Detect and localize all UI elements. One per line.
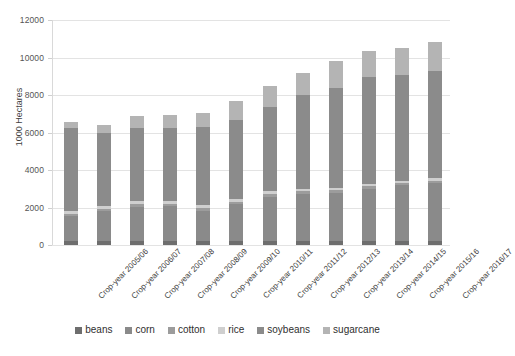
bar-segment-corn	[296, 194, 310, 241]
bar-segment-soybeans	[130, 128, 144, 201]
bar-segment-corn	[362, 189, 376, 241]
legend-item-corn[interactable]: corn	[125, 325, 154, 335]
bar-segment-corn	[64, 216, 78, 240]
bar-segment-sugarcane	[97, 125, 111, 133]
bar-segment-beans	[163, 241, 177, 245]
bar-segment-corn	[329, 193, 343, 241]
bar-crop-year-2009-10	[196, 113, 210, 245]
legend-item-beans[interactable]: beans	[75, 325, 112, 335]
bar-crop-year-2013-14	[329, 61, 343, 246]
bar-segment-beans	[428, 241, 442, 245]
y-tick-label: 12000	[0, 15, 44, 25]
bar-segment-soybeans	[329, 88, 343, 188]
y-tick-label: 0	[0, 240, 44, 250]
legend-label: cotton	[178, 325, 205, 335]
bar-segment-soybeans	[196, 127, 210, 205]
bar-crop-year-2010-11	[229, 101, 243, 245]
legend-item-soybeans[interactable]: soybeans	[257, 325, 310, 335]
bar-segment-beans	[395, 241, 409, 245]
bar-crop-year-2011-12	[263, 86, 277, 245]
bar-segment-sugarcane	[263, 86, 277, 107]
bar-segment-corn	[428, 183, 442, 241]
bar-segment-beans	[229, 241, 243, 245]
bar-segment-corn	[163, 206, 177, 241]
bars-layer	[52, 20, 450, 245]
bar-segment-corn	[97, 211, 111, 240]
legend-swatch-sugarcane-icon	[323, 327, 330, 334]
bar-segment-soybeans	[163, 128, 177, 201]
bar-segment-sugarcane	[296, 73, 310, 94]
bar-crop-year-2008-09	[163, 115, 177, 245]
bar-segment-beans	[329, 241, 343, 245]
bar-segment-corn	[229, 204, 243, 241]
bar-segment-soybeans	[395, 75, 409, 180]
bar-segment-sugarcane	[163, 115, 177, 128]
bar-segment-sugarcane	[428, 42, 442, 71]
legend-swatch-cotton-icon	[168, 327, 175, 334]
bar-crop-year-2006-07	[97, 125, 111, 245]
legend-swatch-rice-icon	[218, 327, 225, 334]
bar-segment-soybeans	[362, 77, 376, 184]
bar-crop-year-2014-15	[362, 51, 376, 245]
plot-area	[52, 20, 450, 245]
legend-label: corn	[135, 325, 154, 335]
y-axis-ticks: 020004000600080001000012000	[0, 20, 48, 245]
bar-segment-soybeans	[296, 95, 310, 189]
legend-label: soybeans	[267, 325, 310, 335]
bar-segment-corn	[395, 185, 409, 241]
bar-segment-soybeans	[263, 107, 277, 191]
bar-segment-corn	[130, 207, 144, 241]
bar-crop-year-2007-08	[130, 116, 144, 245]
bar-segment-sugarcane	[229, 101, 243, 120]
bar-segment-sugarcane	[362, 51, 376, 77]
bar-segment-soybeans	[97, 133, 111, 206]
bar-crop-year-2016-17	[428, 42, 442, 245]
legend-item-sugarcane[interactable]: sugarcane	[323, 325, 380, 335]
bar-segment-sugarcane	[329, 61, 343, 89]
bar-segment-beans	[296, 241, 310, 245]
x-axis-labels: Crop-year 2005/06Crop-year 2006/07Crop-y…	[52, 247, 450, 309]
legend-item-rice[interactable]: rice	[218, 325, 244, 335]
bar-segment-sugarcane	[196, 113, 210, 127]
bar-segment-sugarcane	[395, 48, 409, 75]
legend-swatch-soybeans-icon	[257, 327, 264, 334]
y-axis-title: 1000 Hectares	[14, 57, 24, 177]
bar-segment-beans	[97, 241, 111, 245]
bar-segment-corn	[196, 211, 210, 241]
bar-segment-soybeans	[229, 120, 243, 199]
legend-label: sugarcane	[333, 325, 380, 335]
bar-segment-beans	[64, 241, 78, 245]
legend-label: beans	[85, 325, 112, 335]
legend-item-cotton[interactable]: cotton	[168, 325, 205, 335]
bar-crop-year-2005-06	[64, 122, 78, 245]
bar-segment-soybeans	[428, 71, 442, 179]
chart-legend: beanscorncottonricesoybeanssugarcane	[0, 325, 455, 335]
bar-segment-soybeans	[64, 128, 78, 211]
bar-segment-sugarcane	[130, 116, 144, 128]
bar-crop-year-2015-16	[395, 48, 409, 245]
legend-swatch-corn-icon	[125, 327, 132, 334]
y-tick-label: 2000	[0, 203, 44, 213]
bar-segment-beans	[130, 241, 144, 245]
legend-label: rice	[228, 325, 244, 335]
gridline	[52, 245, 450, 246]
bar-segment-corn	[263, 197, 277, 241]
legend-swatch-beans-icon	[75, 327, 82, 334]
bar-segment-beans	[263, 241, 277, 245]
bar-crop-year-2012-13	[296, 73, 310, 245]
bar-segment-beans	[196, 241, 210, 245]
bar-segment-beans	[362, 241, 376, 245]
